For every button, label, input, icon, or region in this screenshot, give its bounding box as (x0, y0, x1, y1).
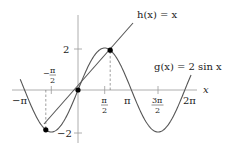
x-tick-label-two-pi: 2π (183, 95, 196, 106)
x-axis-label: x (203, 84, 209, 95)
intersection-point-origin (75, 87, 80, 92)
x-tick-label-neg-half-pi-sign: − (43, 69, 50, 78)
h-line (44, 23, 133, 124)
x-tick-label-three-half-pi-num: 3π (152, 96, 162, 105)
y-tick-label-2: 2 (63, 44, 69, 55)
function-graph: h(x) = x g(x) = 2 sin x x 2 −2 −π − π 2 … (0, 0, 237, 150)
x-tick-label-neg-half-pi-den: 2 (50, 76, 55, 85)
y-tick-label-neg2: −2 (57, 128, 72, 139)
x-tick-label-half-pi-den: 2 (102, 106, 107, 115)
x-tick-label-neg-pi: −π (12, 95, 27, 106)
x-tick-label-neg-half-pi-num: π (50, 66, 55, 75)
h-label: h(x) = x (137, 9, 178, 20)
x-tick-label-three-half-pi-den: 2 (155, 106, 160, 115)
g-label: g(x) = 2 sin x (154, 61, 222, 72)
x-tick-label-pi: π (124, 95, 131, 106)
intersection-point-right (108, 48, 113, 53)
x-tick-label-half-pi-num: π (102, 96, 107, 105)
intersection-point-left (43, 127, 48, 132)
